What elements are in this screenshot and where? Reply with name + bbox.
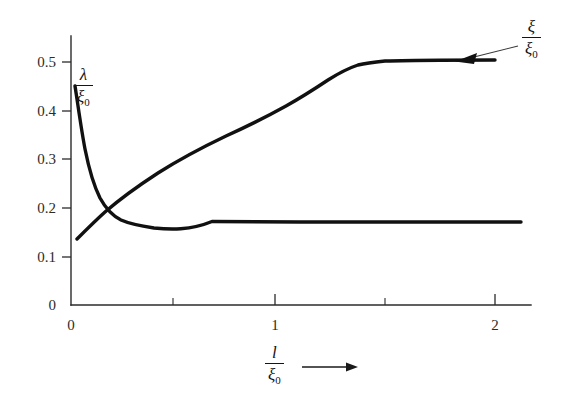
y-tick-label-0.5: 0.5 <box>37 54 56 70</box>
xi-over-xi0-label: ξ ξ0 <box>522 18 541 60</box>
lambda-denominator: ξ0 <box>74 87 93 108</box>
chart-figure: 0.5 0.4 0.3 0.2 0.1 0 0 1 2 <box>0 0 574 402</box>
xi-denominator: ξ0 <box>522 39 541 60</box>
x-axis-direction-arrow <box>300 360 360 374</box>
x-axis-denominator-subscript: 0 <box>275 374 281 386</box>
y-tick-label-0.1: 0.1 <box>37 249 56 265</box>
curve-lambda-over-xi0 <box>75 86 521 229</box>
y-tick-label-0: 0 <box>49 297 57 313</box>
lambda-over-xi0-label: λ ξ0 <box>74 66 93 108</box>
x-axis-numerator: l <box>265 344 284 362</box>
y-axis-tick-labels: 0.5 0.4 0.3 0.2 0.1 0 <box>37 54 56 313</box>
curve-xi-over-xi0 <box>77 60 495 239</box>
axis-spines <box>71 36 531 305</box>
y-tick-label-0.3: 0.3 <box>37 151 56 167</box>
x-tick-label-1: 1 <box>271 317 279 333</box>
x-axis-label: l ξ0 <box>265 344 284 386</box>
fraction-bar <box>522 37 541 38</box>
y-tick-label-0.2: 0.2 <box>37 200 56 216</box>
y-tick-label-0.4: 0.4 <box>37 103 56 119</box>
lambda-denominator-subscript: 0 <box>84 96 90 108</box>
y-axis-ticks <box>62 62 71 257</box>
xi-leader-line <box>470 46 518 58</box>
fraction-bar <box>74 85 93 86</box>
fraction-bar <box>265 363 284 364</box>
x-axis-denominator: ξ0 <box>265 365 284 386</box>
plot-canvas: 0.5 0.4 0.3 0.2 0.1 0 0 1 2 <box>0 0 574 402</box>
x-tick-label-0: 0 <box>67 317 75 333</box>
x-axis-ticks <box>173 294 495 305</box>
x-axis-tick-labels: 0 1 2 <box>67 317 499 333</box>
x-axis-arrow-head <box>346 363 358 372</box>
x-tick-label-2: 2 <box>491 317 499 333</box>
xi-denominator-subscript: 0 <box>532 48 538 60</box>
lambda-numerator: λ <box>74 66 93 84</box>
xi-numerator: ξ <box>522 18 541 36</box>
